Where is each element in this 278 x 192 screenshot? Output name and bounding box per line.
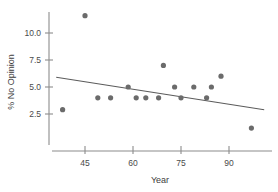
y-axis-title: % No Opinion xyxy=(6,54,16,110)
x-axis-ticks xyxy=(85,146,229,154)
data-point xyxy=(172,84,177,89)
regression-line xyxy=(56,77,264,109)
data-point xyxy=(218,74,223,79)
y-tick-label: 5.0 xyxy=(29,82,41,92)
data-points xyxy=(60,13,254,131)
x-tick-label: 90 xyxy=(224,158,234,168)
data-point xyxy=(178,95,183,100)
x-tick-label: 60 xyxy=(128,158,138,168)
data-point xyxy=(204,95,209,100)
x-tick-label: 75 xyxy=(176,158,186,168)
data-point xyxy=(126,84,131,89)
y-tick-label: 7.5 xyxy=(29,55,41,65)
data-point xyxy=(161,63,166,68)
x-axis-tick-labels: 45607590 xyxy=(80,158,234,168)
y-axis-tick-labels: 2.55.07.510.0 xyxy=(24,28,41,119)
data-point xyxy=(60,107,65,112)
x-tick-label: 45 xyxy=(80,158,90,168)
y-tick-label: 10.0 xyxy=(24,28,41,38)
data-point xyxy=(95,95,100,100)
data-point xyxy=(143,95,148,100)
data-point xyxy=(249,125,254,130)
chart-canvas: 2.55.07.510.0 45607590 Year % No Opinion xyxy=(0,0,278,192)
data-point xyxy=(191,84,196,89)
x-axis: 45607590 xyxy=(52,146,272,168)
data-point xyxy=(108,95,113,100)
data-point xyxy=(134,95,139,100)
y-tick-label: 2.5 xyxy=(29,109,41,119)
data-point xyxy=(82,13,87,18)
y-axis: 2.55.07.510.0 xyxy=(24,12,53,145)
scatter-plot: 2.55.07.510.0 45607590 Year % No Opinion xyxy=(0,0,278,192)
x-axis-title: Year xyxy=(151,175,169,185)
data-point xyxy=(156,95,161,100)
data-point xyxy=(209,84,214,89)
